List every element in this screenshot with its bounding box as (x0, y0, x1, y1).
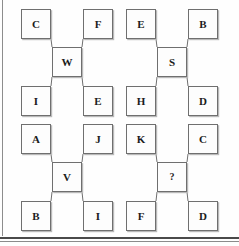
box-label-question-mark: ? (170, 172, 175, 182)
box-top-right[interactable]: C (188, 124, 218, 154)
box-label: D (199, 96, 207, 107)
box-label: A (32, 134, 40, 145)
box-center[interactable]: V (52, 162, 82, 192)
box-label: C (199, 134, 207, 145)
group-bottom-left: A J V B I (21, 124, 113, 231)
box-label: I (34, 96, 38, 107)
box-label: J (95, 134, 101, 145)
box-top-left[interactable]: C (21, 9, 51, 39)
group-top-left: C F W I E (21, 9, 113, 116)
box-bottom-left[interactable]: I (21, 86, 51, 116)
box-top-left[interactable]: K (126, 124, 156, 154)
box-center[interactable]: W (52, 47, 82, 77)
box-label: V (63, 172, 71, 183)
box-label: E (94, 96, 101, 107)
box-top-right[interactable]: F (83, 9, 113, 39)
box-top-right[interactable]: J (83, 124, 113, 154)
box-bottom-left[interactable]: H (126, 86, 156, 116)
left-rule (2, 0, 3, 236)
box-top-left[interactable]: A (21, 124, 51, 154)
box-label: E (137, 19, 144, 30)
box-label: C (32, 19, 40, 30)
box-bottom-right[interactable]: D (188, 201, 218, 231)
box-center[interactable]: S (157, 47, 187, 77)
box-label: F (138, 211, 145, 222)
box-center-answer[interactable]: ? (157, 162, 187, 192)
box-label: I (96, 211, 100, 222)
box-label: W (62, 57, 73, 68)
box-bottom-right[interactable]: E (83, 86, 113, 116)
box-label: D (199, 211, 207, 222)
group-top-right: E B S H D (126, 9, 218, 116)
box-label: B (199, 19, 206, 30)
box-top-right[interactable]: B (188, 9, 218, 39)
bottom-rule-thin (0, 241, 239, 242)
box-bottom-left[interactable]: B (21, 201, 51, 231)
bottom-rule-thick (0, 237, 239, 239)
puzzle-canvas: C F W I E E B S H D A J V B I (0, 0, 239, 246)
box-label: B (32, 211, 39, 222)
box-label: F (95, 19, 102, 30)
box-top-left[interactable]: E (126, 9, 156, 39)
group-bottom-right: K C ? F D (126, 124, 218, 231)
box-label: S (169, 57, 175, 68)
box-label: H (137, 96, 146, 107)
box-bottom-right[interactable]: D (188, 86, 218, 116)
box-bottom-right[interactable]: I (83, 201, 113, 231)
box-bottom-left[interactable]: F (126, 201, 156, 231)
box-label: K (137, 134, 146, 145)
